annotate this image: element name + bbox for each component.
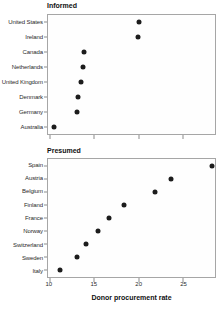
panel-presumed: Presumed SpainAustriaBelgiumFinlandFranc…: [0, 145, 223, 280]
data-point-dot: [135, 35, 140, 40]
labels-column: United StatesIrelandCanadaNetherlandsUni…: [0, 14, 43, 135]
y-axis-tick: [44, 22, 47, 23]
y-axis-tick: [44, 81, 47, 82]
data-point-dot: [95, 229, 100, 234]
category-label: United States: [8, 18, 43, 25]
y-axis-tick: [44, 111, 47, 112]
category-label: Belgium: [22, 188, 43, 195]
y-axis-tick: [44, 67, 47, 68]
category-label: Norway: [23, 228, 43, 235]
panel-informed: Informed United StatesIrelandCanadaNethe…: [0, 0, 223, 140]
data-point-dot: [122, 202, 127, 207]
x-tick-label: 25: [180, 281, 187, 287]
category-label: United Kingdom: [2, 79, 43, 86]
data-point-dot: [82, 50, 87, 55]
x-axis-tick: [138, 135, 139, 139]
data-point-dot: [84, 242, 89, 247]
plot-box: [47, 14, 216, 135]
category-label: Canada: [23, 48, 43, 55]
category-label: Germany: [19, 109, 43, 116]
category-label: France: [25, 215, 43, 222]
category-label: Switzerland: [13, 241, 43, 248]
data-point-dot: [168, 176, 173, 181]
dot-plot-figure: Informed United StatesIrelandCanadaNethe…: [0, 0, 223, 310]
x-tick-labels: 10152025: [47, 281, 216, 289]
labels-column: SpainAustriaBelgiumFinlandFranceNorwaySw…: [0, 158, 43, 278]
y-axis-tick: [44, 204, 47, 205]
category-label: Netherlands: [12, 63, 43, 70]
y-axis-tick: [44, 244, 47, 245]
category-label: Ireland: [25, 33, 43, 40]
x-axis-tick: [94, 135, 95, 139]
y-axis-tick: [44, 165, 47, 166]
data-point-dot: [75, 255, 80, 260]
y-axis-tick: [44, 231, 47, 232]
x-axis-tick: [183, 135, 184, 139]
data-point-dot: [210, 163, 215, 168]
y-axis-tick: [44, 37, 47, 38]
category-label: Italy: [32, 268, 43, 275]
data-point-dot: [80, 65, 85, 70]
plot-box: [47, 158, 216, 278]
panel-title-informed: Informed: [47, 1, 77, 10]
category-label: Sweden: [22, 255, 43, 262]
y-axis-tick: [44, 191, 47, 192]
category-label: Austria: [25, 174, 43, 181]
x-tick-label: 20: [135, 281, 142, 287]
data-point-dot: [78, 79, 83, 84]
y-axis-tick: [44, 218, 47, 219]
category-label: Finland: [24, 201, 43, 208]
x-tick-label: 15: [90, 281, 97, 287]
y-axis-tick: [44, 126, 47, 127]
x-axis-label: Donor procurement rate: [47, 294, 216, 301]
x-tick-label: 10: [45, 281, 52, 287]
data-point-dot: [57, 268, 62, 273]
data-point-dot: [107, 216, 112, 221]
y-axis-tick: [44, 257, 47, 258]
data-point-dot: [137, 20, 142, 25]
y-axis-tick: [44, 96, 47, 97]
category-label: Spain: [28, 161, 43, 168]
y-axis-tick: [44, 178, 47, 179]
y-axis-tick: [44, 52, 47, 53]
data-point-dot: [75, 109, 80, 114]
data-point-dot: [52, 124, 57, 129]
category-label: Australia: [21, 124, 43, 131]
category-label: Denmark: [19, 94, 43, 101]
panel-title-presumed: Presumed: [47, 146, 81, 155]
data-point-dot: [153, 189, 158, 194]
data-point-dot: [76, 94, 81, 99]
y-axis-tick: [44, 270, 47, 271]
x-axis-tick: [49, 135, 50, 139]
